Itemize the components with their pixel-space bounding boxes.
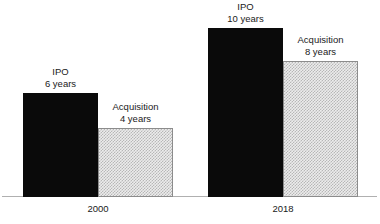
- category-label-2018: 2018: [243, 203, 323, 215]
- bar-2000-ipo[interactable]: [23, 93, 98, 197]
- bar-label-line2: 8 years: [278, 46, 363, 58]
- bar-label-line1: IPO: [18, 66, 103, 78]
- bar-label-line1: Acquisition: [278, 34, 363, 46]
- bar-label-line2: 4 years: [93, 113, 178, 125]
- bar-label-2018-acquisition: Acquisition 8 years: [278, 34, 363, 58]
- category-label-2000: 2000: [58, 203, 138, 215]
- bar-label-2000-ipo: IPO 6 years: [18, 66, 103, 90]
- bar-label-line1: Acquisition: [93, 101, 178, 113]
- bar-2018-acquisition[interactable]: [283, 61, 358, 197]
- bar-label-2000-acquisition: Acquisition 4 years: [93, 101, 178, 125]
- bar-2000-acquisition[interactable]: [98, 128, 173, 197]
- bar-chart: IPO 6 years Acquisition 4 years 2000 IPO…: [0, 0, 380, 224]
- bar-label-2018-ipo: IPO 10 years: [203, 1, 288, 25]
- bar-label-line1: IPO: [203, 1, 288, 13]
- plot-area: IPO 6 years Acquisition 4 years 2000 IPO…: [0, 0, 380, 224]
- bar-label-line2: 6 years: [18, 78, 103, 90]
- bar-label-line2: 10 years: [203, 13, 288, 25]
- bar-2018-ipo[interactable]: [208, 28, 283, 197]
